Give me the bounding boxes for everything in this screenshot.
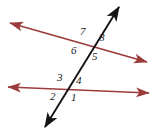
geometry-figure: 7 8 6 5 3 4 2 1 — [0, 0, 155, 134]
angle-label-4: 4 — [76, 75, 82, 86]
angle-label-3: 3 — [57, 72, 63, 83]
lower-parallel-line — [8, 87, 149, 93]
figure-canvas — [0, 0, 155, 134]
angle-label-2: 2 — [50, 91, 56, 102]
angle-label-7: 7 — [80, 26, 86, 37]
upper-parallel-line — [10, 23, 147, 62]
angle-label-5: 5 — [92, 51, 98, 62]
angle-label-6: 6 — [71, 45, 77, 56]
angle-label-8: 8 — [99, 32, 105, 43]
angle-label-1: 1 — [71, 92, 77, 103]
